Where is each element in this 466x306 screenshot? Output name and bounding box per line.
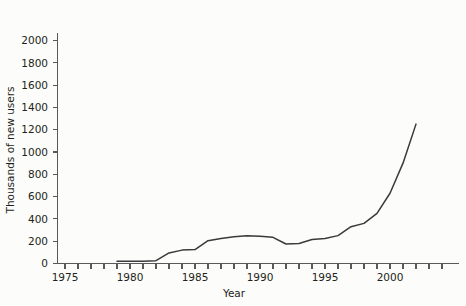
y-tick-label: 200 [28,235,48,247]
x-tick-label: 1980 [117,271,144,283]
x-tick-label: 1995 [312,271,339,283]
y-axis-title: Thousands of new users [4,86,16,214]
y-tick-label: 400 [28,213,48,225]
y-axis-ticks [53,41,58,264]
x-tick-label: 1985 [182,271,209,283]
x-axis-ticks [65,264,442,270]
line-chart: 0 200 400 600 800 1000 1200 1400 1600 18… [0,0,466,306]
y-tick-label: 800 [28,168,48,180]
y-tick-label: 600 [28,190,48,202]
x-tick-label: 1975 [52,271,79,283]
y-axis-tick-labels: 0 200 400 600 800 1000 1200 1400 1600 18… [21,34,48,269]
x-axis-title: Year [222,287,246,299]
y-tick-label: 1000 [21,146,48,158]
y-tick-label: 1600 [21,79,48,91]
x-tick-label: 1990 [247,271,274,283]
y-tick-label: 0 [41,257,48,269]
chart-page: 0 200 400 600 800 1000 1200 1400 1600 18… [0,0,466,306]
y-tick-label: 1800 [21,57,48,69]
x-tick-label: 2000 [377,271,404,283]
x-axis-tick-labels: 1975 1980 1985 1990 1995 2000 [52,271,404,283]
y-tick-label: 1200 [21,123,48,135]
data-series-line [117,124,416,261]
y-tick-label: 2000 [21,34,48,46]
y-tick-label: 1400 [21,101,48,113]
